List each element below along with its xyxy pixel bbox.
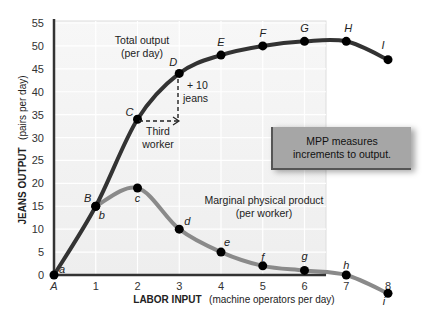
total-output-point-label: H — [344, 22, 352, 34]
x-tick-label: 2 — [134, 280, 140, 292]
mpp-point — [342, 271, 351, 280]
y-tick-label: 30 — [32, 132, 44, 144]
x-tick-label: A — [49, 280, 57, 292]
callout-line-1: MPP measures — [306, 135, 378, 148]
mpp-label-2: (per worker) — [236, 207, 293, 219]
increment-label: + 10 — [187, 79, 208, 91]
total-output-point-label: C — [126, 106, 134, 118]
y-tick-label: 40 — [32, 86, 44, 98]
y-tick-label: 0 — [38, 269, 44, 281]
x-tick-label: 5 — [260, 280, 266, 292]
mpp-point — [217, 248, 226, 257]
total-output-point-label: E — [217, 36, 225, 48]
y-tick-label: 5 — [38, 246, 44, 258]
y-tick-label: 20 — [32, 177, 44, 189]
mpp-point — [300, 266, 309, 275]
total-output-point-label: B — [84, 192, 91, 204]
mpp-point-label: a — [59, 263, 65, 275]
x-tick-label: 3 — [176, 280, 182, 292]
total-output-point — [133, 115, 142, 124]
mpp-label-1: Marginal physical product — [204, 194, 323, 206]
x-tick-label: 7 — [343, 280, 349, 292]
x-tick-label: 1 — [93, 280, 99, 292]
mpp-point-label: i — [383, 295, 386, 307]
mpp-point-label: b — [99, 209, 105, 221]
y-tick-label: 50 — [32, 40, 44, 52]
y-tick-label: 25 — [32, 154, 44, 166]
mpp-callout-box: MPP measures increments to output. — [271, 127, 411, 170]
y-tick-label: 15 — [32, 200, 44, 212]
mpp-point-label: g — [301, 250, 308, 262]
total-output-point — [258, 41, 267, 50]
svg-text:JEANS OUTPUT (pairs per: JEANS OUTPUT (pairs per day) — [12, 75, 29, 224]
x-axis-ticks: A12345678 — [49, 280, 391, 292]
total-output-point — [300, 37, 309, 46]
total-output-point-label: I — [381, 39, 384, 51]
x-tick-label: 6 — [301, 280, 307, 292]
x-tick-label: 4 — [218, 280, 224, 292]
total-output-label-2: (per day) — [121, 47, 163, 59]
total-output-point — [217, 51, 226, 60]
total-output-point — [50, 271, 59, 280]
third-worker-label-2: worker — [141, 138, 174, 150]
mpp-point-label: e — [224, 236, 230, 248]
mpp-point-label: h — [343, 259, 349, 271]
total-output-point — [175, 69, 184, 78]
y-tick-label: 10 — [32, 223, 44, 235]
total-output-point — [342, 37, 351, 46]
y-tick-label: 35 — [32, 109, 44, 121]
mpp-point-label: c — [135, 192, 141, 204]
total-output-point-label: D — [169, 56, 177, 68]
third-worker-label-1: Third — [146, 125, 170, 137]
mpp-point — [175, 225, 184, 234]
y-axis-label: JEANS OUTPUT (pairs per day) — [12, 75, 29, 224]
total-output-label-1: Total output — [115, 34, 169, 46]
y-tick-label: 45 — [32, 63, 44, 75]
total-output-point-label: G — [300, 22, 309, 34]
total-output-point — [384, 55, 393, 64]
y-tick-label: 55 — [32, 17, 44, 29]
callout-line-2: increments to output. — [293, 148, 391, 161]
mpp-point-label: d — [184, 215, 191, 227]
y-axis-ticks: 0510152025303540455055 — [32, 17, 44, 281]
increment-unit-label: jeans — [182, 92, 208, 104]
